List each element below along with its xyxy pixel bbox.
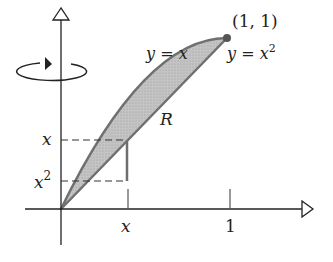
y-axis-arrow-icon <box>53 8 69 20</box>
x-tick-label-1: 1 <box>225 216 236 236</box>
y-tick-label-x: x <box>42 129 52 149</box>
region-r <box>61 38 227 209</box>
y-tick-label-x-squared: x2 <box>34 169 51 192</box>
rotation-arrow-icon <box>17 57 87 80</box>
x-tick-label-x: x <box>121 216 131 236</box>
x-axis-arrow-icon <box>302 201 313 217</box>
point-label: (1, 1) <box>232 11 278 31</box>
curve-upper-label: y = x <box>145 44 188 63</box>
curve-lower-label: y = x2 <box>226 42 276 63</box>
region-rotation-diagram: (1, 1) y = x y = x2 R x x2 x 1 <box>0 0 333 262</box>
region-label: R <box>159 109 173 129</box>
point-1-1 <box>223 34 231 42</box>
